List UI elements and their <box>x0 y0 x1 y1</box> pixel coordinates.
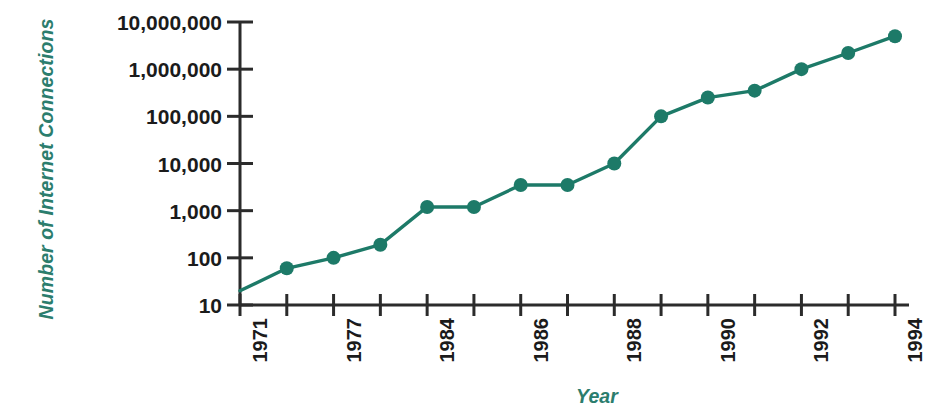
data-point-marker <box>420 200 434 214</box>
data-point-marker <box>373 238 387 252</box>
data-point-marker <box>794 62 808 76</box>
data-point-marker <box>841 46 855 60</box>
data-point-marker <box>701 91 715 105</box>
data-point-marker <box>607 157 621 171</box>
data-point-marker <box>467 200 481 214</box>
data-point-marker <box>514 178 528 192</box>
data-point-marker <box>654 109 668 123</box>
data-series-group <box>240 29 902 291</box>
data-point-marker <box>888 29 902 43</box>
data-point-marker <box>561 178 575 192</box>
data-line <box>240 36 895 291</box>
data-point-marker <box>327 251 341 265</box>
data-point-marker <box>280 261 294 275</box>
data-point-marker <box>748 84 762 98</box>
